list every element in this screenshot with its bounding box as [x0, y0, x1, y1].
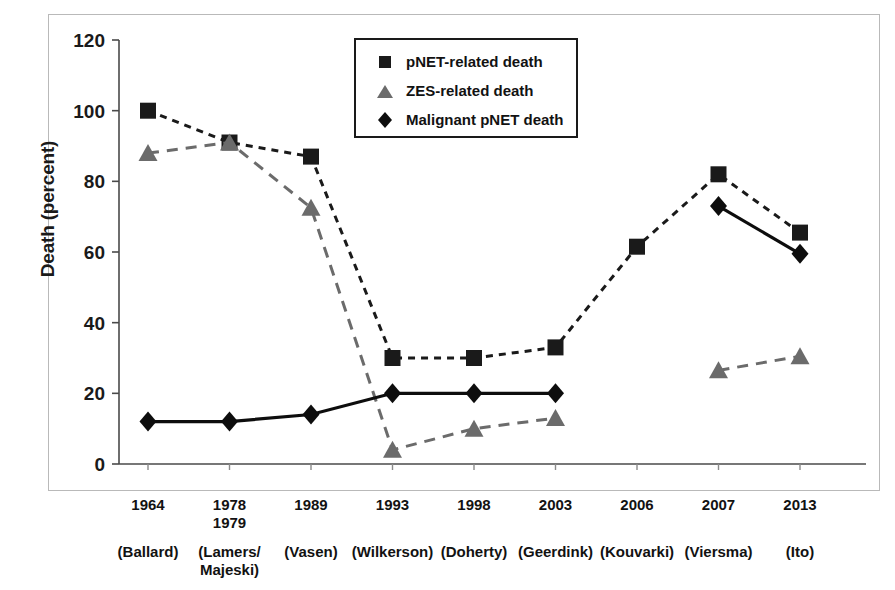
y-tick-label: 20 [84, 383, 105, 404]
data-point-diamond [140, 412, 157, 432]
data-point-square [548, 339, 564, 355]
x-axis-label-2013: 2013(Ito) [745, 496, 855, 561]
y-tick-label: 40 [84, 313, 105, 334]
figure-root: Death (percent) 020406080100120 pNET-rel… [0, 0, 895, 590]
data-point-triangle [383, 441, 402, 458]
y-tick-label: 100 [73, 101, 105, 122]
data-point-square [466, 350, 482, 366]
x-label-year: 2013 [745, 496, 855, 514]
data-point-square [711, 166, 727, 182]
data-point-triangle [546, 409, 565, 426]
x-label-author: (Ito) [745, 543, 855, 561]
data-point-square [629, 239, 645, 255]
chart-legend: pNET-related death ZES-related death Mal… [354, 38, 578, 138]
legend-item-zes-related-death: ZES-related death [356, 76, 576, 105]
series-pnet-related-death [140, 103, 808, 366]
series-zes-related-death [139, 133, 810, 457]
data-point-diamond [221, 412, 238, 432]
x-axis-ticks [148, 464, 800, 470]
x-axis-labels: 1964(Ballard)1978 1979(Lamers/ Majeski)1… [48, 496, 880, 588]
data-point-diamond [547, 383, 564, 403]
legend-label-pnet-related-death: pNET-related death [406, 53, 543, 70]
y-tick-label: 0 [94, 454, 105, 475]
y-tick-label: 60 [84, 242, 105, 263]
data-point-diamond [466, 383, 483, 403]
data-point-diamond [303, 405, 320, 425]
series-malignant-pnet-death [140, 196, 809, 432]
legend-item-malignant-pnet-death: Malignant pNET death [356, 105, 576, 134]
legend-item-pnet-related-death: pNET-related death [356, 47, 576, 76]
y-tick-label: 80 [84, 171, 105, 192]
data-point-triangle [791, 347, 810, 364]
legend-label-malignant-pnet-death: Malignant pNET death [406, 111, 564, 128]
data-point-diamond [792, 244, 809, 264]
legend-label-zes-related-death: ZES-related death [406, 82, 534, 99]
y-axis-ticks: 020406080100120 [73, 30, 119, 475]
diamond-marker-icon [372, 111, 398, 129]
data-point-diamond [384, 383, 401, 403]
data-point-square [140, 103, 156, 119]
data-point-square [303, 149, 319, 165]
triangle-marker-icon [372, 82, 398, 100]
data-point-square [385, 350, 401, 366]
y-tick-label: 120 [73, 30, 105, 51]
data-point-square [792, 225, 808, 241]
data-point-diamond [710, 196, 727, 216]
square-marker-icon [372, 53, 398, 71]
